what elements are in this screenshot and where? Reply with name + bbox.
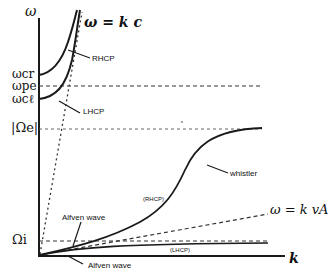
tick-omega-e: |Ωe|: [11, 121, 38, 134]
lhcp-paren-label: (LHCP): [170, 247, 190, 253]
tick-omega-i: Ωi: [12, 233, 27, 246]
rhcp-leader: [68, 50, 90, 58]
rhcp-paren-label: (RHCP): [143, 196, 164, 202]
alfven-lower-label: Alfven wave: [88, 262, 131, 270]
tick-wcl: ωcℓ: [12, 93, 34, 105]
rhcp-label: RHCP: [92, 55, 115, 63]
alfven-upper-label: Alfven wave: [62, 214, 105, 222]
alfven-line-label: ω = k vA: [270, 203, 329, 216]
alfven-lower-leader: [68, 256, 83, 264]
whistler-curve: [40, 128, 262, 255]
y-axis-label: ω: [25, 4, 36, 18]
light-line-label: ω = k c: [84, 15, 142, 29]
alfven-upper-leader: [73, 222, 81, 246]
tick-wpe: ωpe: [12, 80, 37, 92]
dispersion-diagram: [0, 0, 336, 280]
x-axis-label: k: [289, 251, 299, 265]
whistler-leader: [207, 165, 228, 173]
ion-cyclotron-curve: [40, 243, 268, 255]
whistler-label: whistler: [230, 170, 257, 178]
lhcp-leader: [59, 101, 80, 113]
stray-dot: [181, 121, 183, 123]
lhcp-label: LHCP: [83, 108, 104, 116]
